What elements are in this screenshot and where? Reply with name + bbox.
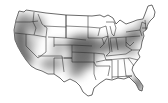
- us-density-map: [0, 0, 168, 103]
